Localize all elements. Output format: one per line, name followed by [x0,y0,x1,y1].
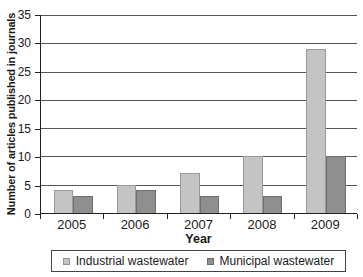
bar-industrial-2005 [54,190,74,213]
x-axis-labels: 20052006200720082009 [40,217,357,232]
x-tick-label-2008: 2008 [230,217,293,232]
x-tick-label-2005: 2005 [40,217,103,232]
bar-municipal-2007 [200,196,220,213]
municipal-series-swatch [207,258,214,265]
gridline-30 [41,43,357,44]
legend-label-municipal: Municipal wastewater [220,254,335,268]
industrial-series-swatch [63,258,70,265]
bar-industrial-2009 [306,49,326,213]
x-axis-title: Year [40,232,357,246]
gridline-35 [41,15,357,16]
x-tick-label-2009: 2009 [294,217,357,232]
y-axis-title: Number of articles published in journals [5,13,17,215]
bar-municipal-2009 [326,156,346,213]
legend-entry-municipal: Municipal wastewater [207,254,335,268]
legend-entry-industrial: Industrial wastewater [63,254,189,268]
legend: Industrial wastewater Municipal wastewat… [40,250,357,272]
plot-area [40,15,357,214]
x-tick-label-2006: 2006 [103,217,166,232]
bar-industrial-2006 [117,185,137,213]
legend-label-industrial: Industrial wastewater [76,254,189,268]
bar-chart: Number of articles published in journals… [0,0,363,277]
bar-municipal-2005 [73,196,93,213]
bar-municipal-2006 [136,190,156,213]
bar-industrial-2008 [243,156,263,213]
bar-municipal-2008 [263,196,283,213]
x-tick-label-2007: 2007 [167,217,230,232]
legend-box: Industrial wastewater Municipal wastewat… [51,250,346,272]
bar-industrial-2007 [180,173,200,213]
x-tick-mark-5 [357,214,358,219]
